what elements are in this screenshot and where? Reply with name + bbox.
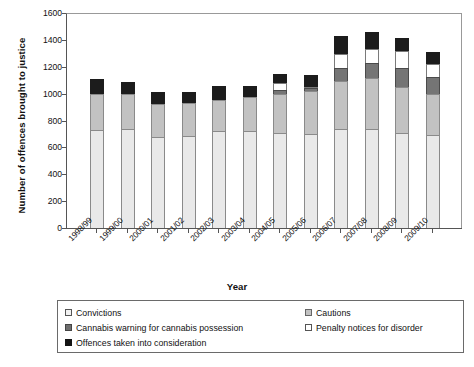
x-tick-mark (371, 228, 372, 233)
bar-segment (90, 94, 104, 130)
bar-segment (212, 131, 226, 228)
legend-item-label: Cautions (316, 308, 351, 318)
bar-segment (395, 68, 409, 87)
bar-segment (426, 64, 440, 77)
bar-segment (395, 87, 409, 133)
y-tick-label: 1000 (0, 89, 62, 99)
bar-segment (334, 129, 348, 228)
swatch-convictions-icon (65, 309, 72, 316)
bar-segment (212, 100, 226, 131)
bar-segment (212, 86, 226, 100)
chart-legend: ConvictionsCannabis warning for cannabis… (57, 300, 464, 353)
bar-segment (273, 74, 287, 83)
bar-2001-02 (182, 92, 196, 228)
bar-2003-04 (243, 86, 257, 228)
plot-area (66, 13, 462, 228)
x-tick-mark (401, 228, 402, 233)
y-tick-label: 1600 (0, 8, 62, 18)
bar-segment (395, 51, 409, 68)
swatch-cautions-icon (305, 309, 312, 316)
bar-segment (334, 68, 348, 81)
bar-segment (121, 82, 135, 94)
bar-segment (151, 137, 165, 228)
x-axis-title: Year (0, 281, 474, 292)
y-tick-label: 800 (0, 116, 62, 126)
bar-segment (243, 131, 257, 228)
bar-segment (273, 83, 287, 90)
bar-segment (243, 97, 257, 131)
bar-segment (365, 49, 379, 64)
bar-segment (304, 91, 318, 134)
x-tick-mark (188, 228, 189, 233)
bar-2008-09 (395, 38, 409, 228)
chart-figure: Number of offences brought to justice 02… (0, 0, 474, 367)
bar-segment (426, 135, 440, 228)
bar-1999-00 (121, 82, 135, 228)
x-tick-mark (218, 228, 219, 233)
bar-segment (395, 133, 409, 228)
bar-2002-03 (212, 86, 226, 228)
legend-column-right: CautionsPenalty notices for disorder (305, 305, 423, 335)
bar-segment (90, 79, 104, 94)
bar-2000-01 (151, 92, 165, 228)
bar-segment (90, 130, 104, 228)
x-tick-mark (310, 228, 311, 233)
bar-segment (151, 104, 165, 138)
bar-segment (304, 134, 318, 228)
bar-segment (426, 52, 440, 64)
x-tick-mark (432, 228, 433, 233)
bar-segment (273, 133, 287, 228)
bar-segment (334, 36, 348, 54)
y-tick-label: 0 (0, 223, 62, 233)
y-tick-label: 600 (0, 142, 62, 152)
bar-1998-99 (90, 79, 104, 228)
legend-item[interactable]: Offences taken into consideration (65, 335, 243, 350)
legend-item-label: Cannabis warning for cannabis possession (76, 323, 243, 333)
bar-2006-07 (334, 36, 348, 228)
x-tick-mark (96, 228, 97, 233)
x-tick-mark (279, 228, 280, 233)
bar-segment (426, 94, 440, 136)
x-tick-mark (127, 228, 128, 233)
y-tick-label: 400 (0, 169, 62, 179)
bar-2009-10 (426, 52, 440, 228)
legend-item[interactable]: Cannabis warning for cannabis possession (65, 320, 243, 335)
bar-segment (426, 77, 440, 94)
legend-item[interactable]: Penalty notices for disorder (305, 320, 423, 335)
bar-segment (121, 129, 135, 228)
legend-item-label: Offences taken into consideration (76, 338, 206, 348)
bar-segment (395, 38, 409, 51)
bar-2007-08 (365, 32, 379, 228)
bar-segment (182, 136, 196, 228)
legend-column-left: ConvictionsCannabis warning for cannabis… (65, 305, 243, 350)
bar-segment (121, 94, 135, 130)
bar-segment (182, 103, 196, 136)
bar-segment (365, 78, 379, 128)
bar-segment (365, 129, 379, 228)
x-tick-mark (340, 228, 341, 233)
bar-segment (365, 63, 379, 78)
y-tick-label: 200 (0, 196, 62, 206)
legend-item[interactable]: Convictions (65, 305, 243, 320)
legend-item-label: Convictions (76, 308, 121, 318)
bar-segment (182, 92, 196, 103)
bars-container (67, 14, 461, 228)
swatch-penalty-icon (305, 324, 312, 331)
x-tick-mark (249, 228, 250, 233)
y-tick-label: 1400 (0, 35, 62, 45)
y-tick-label: 1200 (0, 62, 62, 72)
bar-segment (304, 75, 318, 86)
x-tick-mark (157, 228, 158, 233)
bar-2005-06 (304, 75, 318, 228)
swatch-otic-icon (65, 339, 72, 346)
bar-segment (273, 94, 287, 133)
bar-segment (151, 92, 165, 103)
bar-segment (334, 81, 348, 129)
legend-item[interactable]: Cautions (305, 305, 423, 320)
bar-segment (243, 86, 257, 97)
bar-2004-05 (273, 74, 287, 228)
legend-item-label: Penalty notices for disorder (316, 323, 423, 333)
bar-segment (334, 54, 348, 68)
swatch-cannabis-icon (65, 324, 72, 331)
bar-segment (365, 32, 379, 48)
